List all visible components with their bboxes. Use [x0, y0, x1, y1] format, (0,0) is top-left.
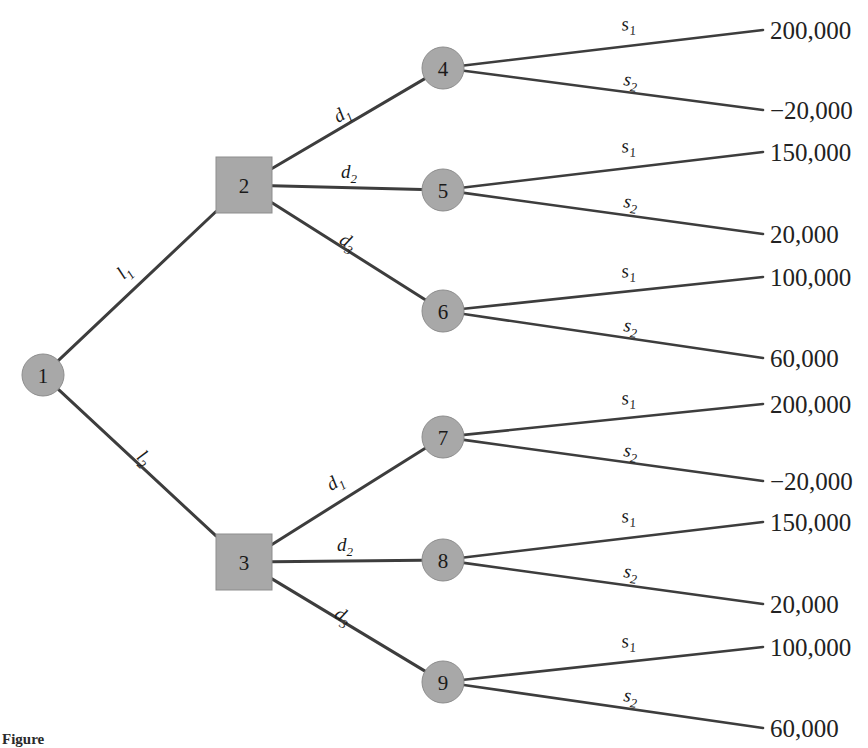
- branch-label-upper-d2: d2: [341, 161, 358, 186]
- node-label-2: 2: [239, 174, 250, 198]
- terminal-edge-5-s1: [464, 152, 763, 188]
- payoff-value-4-s2: −20,000: [770, 97, 853, 124]
- decision-tree-figure: 123456789 l1l2d1d2d3d1d2d3 s1200,000s2−2…: [0, 0, 868, 748]
- node-label-7: 7: [438, 426, 449, 450]
- branch-label-lower-d1: d1: [322, 468, 349, 498]
- state-label-8-s2: s2: [622, 560, 640, 587]
- edge-3-to-9: [272, 579, 425, 671]
- edges-layer: [58, 30, 763, 728]
- terminal-edge-9-s1: [464, 647, 763, 680]
- node-9[interactable]: 9: [422, 661, 464, 703]
- payoff-value-7-s2: −20,000: [770, 468, 853, 495]
- nodes-layer: 123456789: [22, 47, 464, 703]
- terminal-edge-4-s2: [464, 71, 763, 110]
- state-label-7-s1: s1: [620, 386, 637, 413]
- terminal-edge-8-s2: [464, 563, 763, 604]
- state-label-9-s1: s1: [620, 629, 637, 656]
- branch-label-l1: l1: [112, 260, 138, 286]
- payoff-value-8-s2: 20,000: [770, 591, 839, 618]
- node-8[interactable]: 8: [422, 539, 464, 581]
- edge-2-to-4: [272, 79, 425, 169]
- node-label-5: 5: [438, 179, 449, 203]
- node-label-6: 6: [438, 300, 449, 324]
- state-label-8-s1: s1: [620, 504, 637, 531]
- figure-caption: Figure: [2, 731, 44, 748]
- edge-2-to-5: [272, 186, 422, 190]
- branch-label-upper-d3: d3: [334, 228, 361, 258]
- state-label-6-s1: s1: [620, 259, 637, 286]
- terminal-edge-5-s2: [464, 193, 763, 234]
- payoff-value-4-s1: 200,000: [770, 17, 851, 44]
- terminal-edge-7-s2: [464, 440, 763, 481]
- terminal-edge-6-s2: [464, 314, 763, 358]
- node-6[interactable]: 6: [422, 290, 464, 332]
- payoff-value-9-s1: 100,000: [770, 634, 851, 661]
- node-7[interactable]: 7: [422, 416, 464, 458]
- node-5[interactable]: 5: [422, 169, 464, 211]
- terminal-edge-8-s1: [464, 522, 763, 558]
- edge-3-to-8: [272, 560, 422, 562]
- state-label-5-s2: s2: [622, 190, 640, 217]
- terminal-edge-4-s1: [464, 30, 763, 66]
- node-3[interactable]: 3: [216, 534, 272, 590]
- terminal-edge-7-s1: [464, 404, 763, 435]
- state-label-5-s1: s1: [620, 134, 637, 161]
- node-2[interactable]: 2: [216, 157, 272, 213]
- payoff-value-8-s1: 150,000: [770, 509, 851, 536]
- node-4[interactable]: 4: [422, 47, 464, 89]
- payoff-labels-layer: s1200,000s2−20,000s1150,000s220,000s1100…: [620, 12, 853, 741]
- state-label-4-s1: s1: [620, 12, 637, 39]
- node-label-3: 3: [239, 551, 250, 575]
- payoff-value-6-s2: 60,000: [770, 345, 839, 372]
- node-label-8: 8: [438, 549, 449, 573]
- node-label-1: 1: [38, 364, 49, 388]
- payoff-value-6-s1: 100,000: [770, 264, 851, 291]
- terminal-edge-9-s2: [464, 685, 763, 728]
- payoff-value-9-s2: 60,000: [770, 715, 839, 742]
- branch-label-lower-d2: d2: [337, 534, 354, 559]
- decision-tree-canvas: 123456789 l1l2d1d2d3d1d2d3 s1200,000s2−2…: [0, 0, 868, 748]
- node-label-4: 4: [438, 57, 449, 81]
- node-label-9: 9: [438, 671, 449, 695]
- edge-1-to-2: [58, 211, 216, 360]
- edge-3-to-7: [272, 448, 425, 544]
- node-1[interactable]: 1: [22, 354, 64, 396]
- payoff-value-5-s2: 20,000: [770, 221, 839, 248]
- figure-number: Figure: [2, 731, 44, 747]
- payoff-value-7-s1: 200,000: [770, 391, 851, 418]
- payoff-value-5-s1: 150,000: [770, 139, 851, 166]
- terminal-edge-6-s1: [464, 277, 763, 309]
